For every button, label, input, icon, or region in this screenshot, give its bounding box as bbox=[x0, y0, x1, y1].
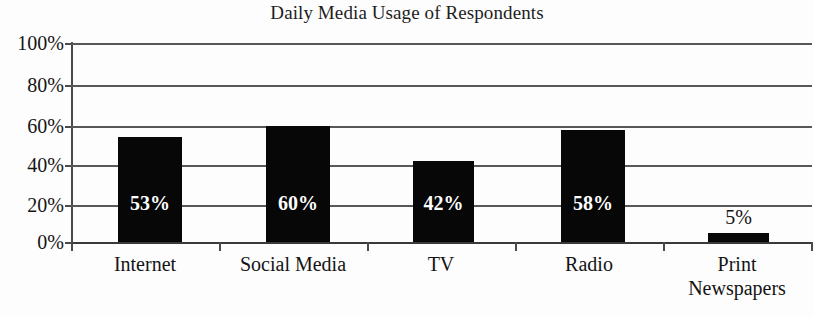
x-axis-label-social-media: Social Media bbox=[219, 252, 367, 276]
x-axis-label-print-newspapers-line2: Newspapers bbox=[663, 276, 811, 300]
gridline-80 bbox=[71, 85, 812, 87]
y-tick-label-100: 100% bbox=[2, 33, 64, 53]
gridline-60 bbox=[71, 126, 812, 128]
bar-print-newspapers bbox=[708, 233, 769, 242]
bar-tv: 42% bbox=[413, 161, 474, 242]
x-tick-mark-0 bbox=[71, 242, 73, 251]
x-tick-mark-3 bbox=[515, 242, 517, 251]
gridline-0-baseline bbox=[71, 242, 812, 244]
x-tick-mark-4 bbox=[663, 242, 665, 251]
y-tick-label-20: 20% bbox=[2, 195, 64, 215]
chart-title: Daily Media Usage of Respondents bbox=[0, 2, 814, 24]
bar-value-internet: 53% bbox=[118, 193, 182, 213]
bar-value-tv: 42% bbox=[413, 193, 474, 213]
y-tick-label-40: 40% bbox=[2, 155, 64, 175]
y-tick-label-0: 0% bbox=[2, 232, 64, 252]
x-axis-label-internet-text: Internet bbox=[71, 252, 219, 276]
y-tick-label-80: 80% bbox=[2, 75, 64, 95]
bar-radio: 58% bbox=[561, 130, 625, 242]
bar-internet: 53% bbox=[118, 137, 182, 242]
x-axis-label-internet: Internet bbox=[71, 252, 219, 276]
x-axis-label-radio-text: Radio bbox=[515, 252, 663, 276]
x-axis-label-radio: Radio bbox=[515, 252, 663, 276]
bar-value-radio: 58% bbox=[561, 193, 625, 213]
x-axis-label-social-media-text: Social Media bbox=[219, 252, 367, 276]
x-tick-mark-1 bbox=[219, 242, 221, 251]
gridline-100 bbox=[71, 43, 812, 45]
y-tick-label-60: 60% bbox=[2, 116, 64, 136]
x-axis-label-print-newspapers: Print Newspapers bbox=[663, 252, 811, 300]
x-axis-label-print-newspapers-line1: Print bbox=[663, 252, 811, 276]
x-axis-label-tv: TV bbox=[367, 252, 515, 276]
x-tick-mark-2 bbox=[367, 242, 369, 251]
bar-social-media: 60% bbox=[266, 126, 330, 242]
bar-value-social-media: 60% bbox=[266, 193, 330, 213]
plot-area: 53% 60% 42% 58% 5% bbox=[71, 43, 812, 242]
bar-value-print-newspapers: 5% bbox=[708, 207, 769, 227]
y-axis-tick-labels: 100% 80% 60% 40% 20% 0% bbox=[0, 0, 64, 317]
x-tick-mark-5 bbox=[811, 242, 813, 251]
bar-chart: Daily Media Usage of Respondents 100% 80… bbox=[0, 0, 814, 317]
x-axis-label-tv-text: TV bbox=[367, 252, 515, 276]
